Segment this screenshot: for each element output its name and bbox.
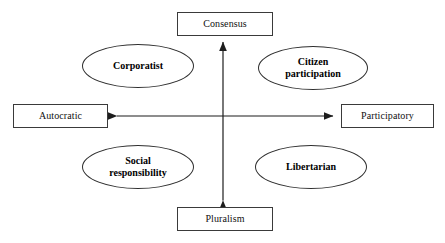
ellipse-social-responsibility-label: Social responsibility <box>99 155 177 179</box>
ellipse-corporatist-label: Corporatist <box>103 60 173 72</box>
box-pluralism[interactable]: Pluralism <box>177 207 273 231</box>
ellipse-citizen-participation[interactable]: Citizen participation <box>258 46 368 90</box>
ellipse-social-responsibility-line2: responsibility <box>109 167 167 178</box>
ellipse-libertarian-label: Libertarian <box>276 161 346 173</box>
box-autocratic-label: Autocratic <box>39 110 82 122</box>
diagram-canvas: Consensus Autocratic Participatory Plura… <box>0 0 445 243</box>
box-participatory-label: Participatory <box>361 110 414 122</box>
box-consensus[interactable]: Consensus <box>177 12 273 36</box>
ellipse-social-responsibility-line1: Social <box>125 155 151 166</box>
ellipse-citizen-participation-line1: Citizen <box>298 56 329 67</box>
box-participatory[interactable]: Participatory <box>341 104 434 128</box>
ellipse-social-responsibility[interactable]: Social responsibility <box>82 145 194 189</box>
ellipse-corporatist[interactable]: Corporatist <box>82 44 194 88</box>
box-autocratic[interactable]: Autocratic <box>13 104 108 128</box>
box-pluralism-label: Pluralism <box>205 213 244 225</box>
ellipse-citizen-participation-line2: participation <box>285 68 341 79</box>
ellipse-libertarian[interactable]: Libertarian <box>255 145 367 189</box>
ellipse-citizen-participation-label: Citizen participation <box>275 56 351 80</box>
box-consensus-label: Consensus <box>203 18 247 30</box>
